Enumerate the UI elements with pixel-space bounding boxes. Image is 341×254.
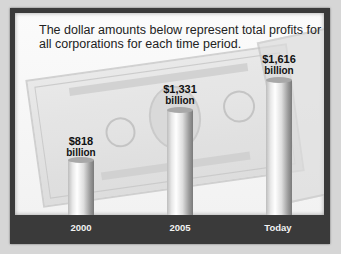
value-label-2000: $818billion bbox=[51, 135, 111, 159]
chart-frame: The dollar amounts below represent total… bbox=[10, 8, 330, 244]
chart-panel: The dollar amounts below represent total… bbox=[15, 13, 324, 215]
x-tick-2000: 2000 bbox=[51, 222, 111, 233]
bar-2000 bbox=[68, 160, 94, 215]
bar-2005 bbox=[167, 110, 193, 215]
x-axis: 2000 2005 Today bbox=[10, 215, 330, 244]
x-tick-today: Today bbox=[248, 222, 308, 233]
chart-title: The dollar amounts below represent total… bbox=[39, 23, 324, 51]
x-tick-2005: 2005 bbox=[150, 222, 210, 233]
value-label-2005: $1,331billion bbox=[150, 83, 210, 107]
bar-today bbox=[266, 80, 292, 215]
value-label-today: $1,616billion bbox=[249, 53, 309, 77]
